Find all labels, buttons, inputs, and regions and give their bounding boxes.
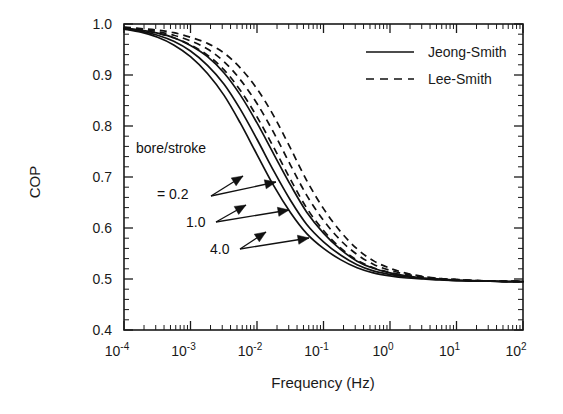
cop-vs-frequency-chart: 10-410-310-210-1100101102 0.40.50.60.70.…	[0, 0, 563, 414]
y-tick-label: 0.9	[93, 67, 113, 83]
annotation-label-ratio-10: 1.0	[186, 214, 206, 230]
y-tick-label: 0.4	[93, 322, 113, 338]
y-tick-label: 0.5	[93, 271, 113, 287]
legend-label-lee-smith: Lee-Smith	[428, 71, 492, 87]
x-axis-title: Frequency (Hz)	[271, 374, 374, 391]
chart-background	[0, 0, 563, 414]
annotation-label-ratio-02: = 0.2	[157, 186, 189, 202]
y-tick-label: 1.0	[93, 16, 113, 32]
annotation-label-ratio-40: 4.0	[210, 241, 230, 257]
y-tick-label: 0.6	[93, 220, 113, 236]
y-tick-label: 0.7	[93, 169, 113, 185]
y-axis-title: COP	[26, 166, 43, 199]
legend-label-jeong-smith: Jeong-Smith	[428, 44, 507, 60]
annotation-label-bore-stroke: bore/stroke	[136, 140, 206, 156]
y-tick-label: 0.8	[93, 118, 113, 134]
